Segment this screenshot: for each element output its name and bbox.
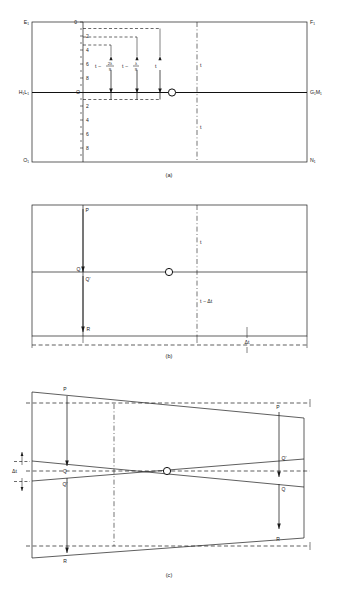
panel-a-scale-lower-8: 8	[86, 145, 89, 151]
panel-b-label-r: R	[87, 326, 91, 332]
panel-a-label-bottom-right: N₁	[310, 157, 316, 163]
panel-a-scale-lower-6: 6	[86, 131, 89, 137]
panel-a-measure-label-2: t − λ 9	[122, 61, 139, 72]
panel-b-label-t: t	[200, 239, 202, 245]
panel-a-scale-upper-8: 8	[86, 75, 89, 81]
figure-svg: 0 2 4 6 8 2 4 6 8	[0, 0, 338, 591]
panel-a-arrowhead-up-2	[135, 56, 138, 60]
panel-a-measure-2-den: 9	[135, 67, 138, 72]
panel-a-label-mid-left: H₁L₁	[19, 89, 29, 95]
panel-c-delta-t-bracket: Δt	[12, 452, 30, 491]
panel-c-label-delta-t: Δt	[12, 468, 17, 474]
panel-a-label-top-left: E₁	[24, 19, 29, 25]
panel-c-envelope-top	[32, 392, 304, 418]
panel-b-arrow-qr	[81, 276, 85, 332]
panel-a-arrow-1	[109, 70, 113, 100]
panel-a-scale-upper	[80, 22, 83, 85]
panel-a-arrowhead-up-1	[109, 56, 112, 60]
panel-a-scale-upper-2: 2	[86, 33, 89, 39]
panel-c-right-arrow-qr	[277, 484, 281, 529]
panel-a-axis-label-t-lower: t	[200, 124, 202, 130]
arrowhead	[277, 524, 281, 529]
panel-b-label-q-prime: Q'	[86, 276, 91, 282]
panel-b-center-marker	[165, 268, 172, 275]
panel-a-measure-label-1: t − 2λ 9	[95, 61, 114, 72]
panel-b: P Q Q' R t t − Δt Δt (b)	[32, 205, 307, 359]
panel-c-right-label-r: R	[276, 536, 280, 542]
panel-a-arrowhead-up-3	[158, 56, 161, 60]
panel-c-right-arrow-pq	[277, 412, 281, 477]
panel-a-scale-upper-6: 6	[86, 61, 89, 67]
arrowhead-down	[21, 487, 24, 491]
panel-a-measure-1-den: 9	[109, 67, 112, 72]
arrowhead	[65, 461, 69, 466]
panel-c-left-arrow-pq	[65, 396, 69, 466]
panel-b-label-q: Q	[77, 266, 81, 272]
panel-c-center-marker	[163, 467, 170, 474]
panel-b-arrow-pq	[81, 209, 85, 272]
panel-a-arrow-2	[135, 70, 139, 100]
panel-a-label-mid-right: G₁M₁	[310, 89, 322, 95]
panel-a-measure-label-3: t	[155, 63, 157, 69]
panel-a: 0 2 4 6 8 2 4 6 8	[19, 19, 322, 178]
panel-a-scale-lower	[80, 99, 83, 155]
panel-a-scale-upper-0: 0	[74, 19, 77, 25]
figure-container: 0 2 4 6 8 2 4 6 8	[0, 0, 338, 591]
panel-a-axis-label-t-upper: t	[200, 62, 202, 68]
panel-c-envelope-bottom	[32, 538, 304, 558]
panel-b-label-delta-t: Δt	[245, 339, 250, 345]
panel-c-left-label-p: P	[63, 386, 67, 392]
panel-c-caption: (c)	[166, 572, 173, 578]
panel-c-right-label-q: Q	[282, 486, 286, 492]
arrowhead-up	[21, 452, 24, 456]
panel-a-center-marker	[168, 89, 175, 96]
panel-a-measure-2-num: λ	[135, 61, 138, 66]
panel-a-label-origin: O	[76, 89, 80, 95]
panel-c-right-label-p: P	[276, 404, 280, 410]
panel-a-measure-2-base: t −	[122, 63, 128, 69]
panel-a-arrow-3	[158, 70, 162, 100]
panel-a-measure-1-num: 2λ	[108, 61, 113, 66]
panel-c-left-arrow-qr	[65, 478, 69, 553]
panel-c-left-label-r: R	[63, 558, 67, 564]
panel-b-label-t-minus-dt: t − Δt	[200, 298, 213, 304]
arrowhead	[81, 267, 85, 272]
panel-a-scale-lower-4: 4	[86, 117, 89, 123]
arrowhead	[277, 472, 281, 477]
panel-c-right-label-q-prime: Q'	[282, 455, 287, 461]
panel-c-left-label-q: Q	[63, 468, 67, 474]
panel-b-label-p: P	[86, 207, 90, 213]
panel-a-measure-1-base: t −	[95, 63, 101, 69]
panel-a-scale-upper-4: 4	[86, 47, 89, 53]
panel-a-scale-lower-2: 2	[86, 103, 89, 109]
arrowhead	[81, 327, 85, 332]
panel-b-caption: (b)	[166, 353, 173, 359]
panel-a-label-top-right: F₁	[310, 19, 315, 25]
panel-c: P Q Q' R P Q' Q R Δt (c)	[12, 386, 310, 579]
arrowhead	[65, 548, 69, 553]
panel-c-left-label-q-prime: Q'	[63, 481, 68, 487]
panel-a-caption: (a)	[166, 172, 173, 178]
panel-a-label-bottom-left: O₁	[23, 157, 29, 163]
